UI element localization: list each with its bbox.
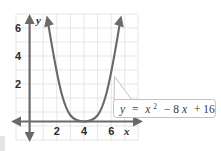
y-tick-labels: 6 4 2	[15, 22, 22, 90]
y-tick-6: 6	[15, 22, 21, 34]
graph-canvas: 6 4 2 2 4 6 y x y = x 2 − 8 x + 16	[0, 0, 221, 151]
parabola-figure: 6 4 2 2 4 6 y x y = x 2 − 8 x + 16	[0, 0, 221, 151]
equation-term2: − 8	[164, 103, 179, 115]
equation-term2-var: x	[181, 103, 188, 115]
y-tick-2: 2	[15, 78, 21, 90]
y-axis-label: y	[34, 14, 41, 26]
y-tick-4: 4	[15, 50, 22, 62]
equation-term1-exponent: 2	[153, 102, 157, 111]
x-tick-2: 2	[54, 125, 60, 137]
equation-lhs: y	[119, 103, 126, 116]
x-axis-label: x	[123, 125, 130, 137]
equation-equals: =	[132, 103, 139, 115]
equation-term3: + 16	[194, 103, 215, 115]
x-tick-4: 4	[81, 125, 88, 137]
equation-term1-base: x	[144, 103, 151, 115]
x-tick-6: 6	[108, 125, 114, 137]
